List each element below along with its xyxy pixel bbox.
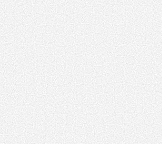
noise-texture xyxy=(0,0,162,144)
noise-svg xyxy=(0,0,162,144)
image-canvas xyxy=(0,0,166,149)
noise-fill xyxy=(0,0,162,144)
